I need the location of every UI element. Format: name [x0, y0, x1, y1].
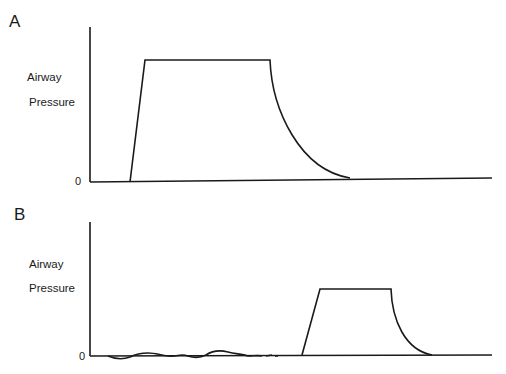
panel-b-waveform [302, 289, 432, 355]
panel-a-waveform [130, 60, 350, 182]
panel-a-x-axis [90, 178, 492, 182]
waveform-diagram [0, 0, 506, 374]
